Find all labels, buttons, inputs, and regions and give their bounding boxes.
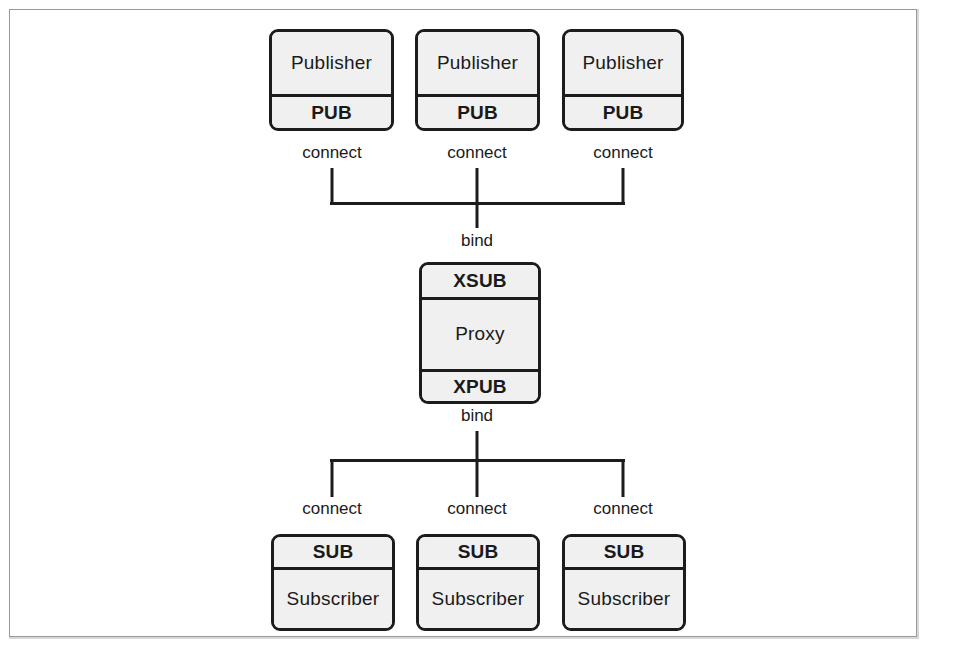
wire-subscriber-drop-2	[476, 459, 479, 497]
publisher-title-2: Publisher	[418, 32, 537, 94]
publisher-socket-2: PUB	[418, 94, 537, 128]
publisher-title-3: Publisher	[565, 32, 681, 94]
publisher-node-1: Publisher PUB	[269, 29, 394, 131]
edge-label-subscriber-connect-1: connect	[302, 499, 362, 519]
wire-proxy-bind-lower	[476, 431, 479, 460]
proxy-node: XSUB Proxy XPUB	[419, 262, 541, 404]
publisher-node-3: Publisher PUB	[562, 29, 684, 131]
wire-publisher-drop-3	[622, 168, 625, 205]
subscriber-node-1: SUB Subscriber	[271, 534, 395, 631]
publisher-socket-3: PUB	[565, 94, 681, 128]
edge-label-proxy-bind-bottom: bind	[461, 406, 493, 426]
edge-label-publisher-connect-1: connect	[302, 143, 362, 163]
subscriber-node-3: SUB Subscriber	[562, 534, 686, 631]
wire-proxy-bind-upper	[476, 202, 479, 228]
edge-label-publisher-connect-3: connect	[593, 143, 653, 163]
subscriber-socket-2: SUB	[419, 537, 537, 567]
wire-subscriber-drop-1	[331, 459, 334, 497]
subscriber-node-2: SUB Subscriber	[416, 534, 540, 631]
publisher-socket-1: PUB	[272, 94, 391, 128]
proxy-title: Proxy	[422, 297, 538, 370]
proxy-xsub-socket: XSUB	[422, 265, 538, 297]
edge-label-publisher-connect-2: connect	[447, 143, 507, 163]
wire-publisher-drop-1	[331, 168, 334, 205]
wire-subscriber-drop-3	[622, 459, 625, 497]
edge-label-proxy-bind-top: bind	[461, 231, 493, 251]
proxy-xpub-socket: XPUB	[422, 369, 538, 401]
figure-frame: Publisher PUB Publisher PUB Publisher PU…	[9, 9, 917, 637]
subscriber-title-3: Subscriber	[565, 567, 683, 628]
subscriber-title-1: Subscriber	[274, 567, 392, 628]
subscriber-socket-1: SUB	[274, 537, 392, 567]
publisher-title-1: Publisher	[272, 32, 391, 94]
edge-label-subscriber-connect-3: connect	[593, 499, 653, 519]
subscriber-title-2: Subscriber	[419, 567, 537, 628]
publisher-node-2: Publisher PUB	[415, 29, 540, 131]
subscriber-socket-3: SUB	[565, 537, 683, 567]
figure-canvas: Publisher PUB Publisher PUB Publisher PU…	[0, 0, 955, 668]
wire-publisher-drop-2	[476, 168, 479, 205]
edge-label-subscriber-connect-2: connect	[447, 499, 507, 519]
